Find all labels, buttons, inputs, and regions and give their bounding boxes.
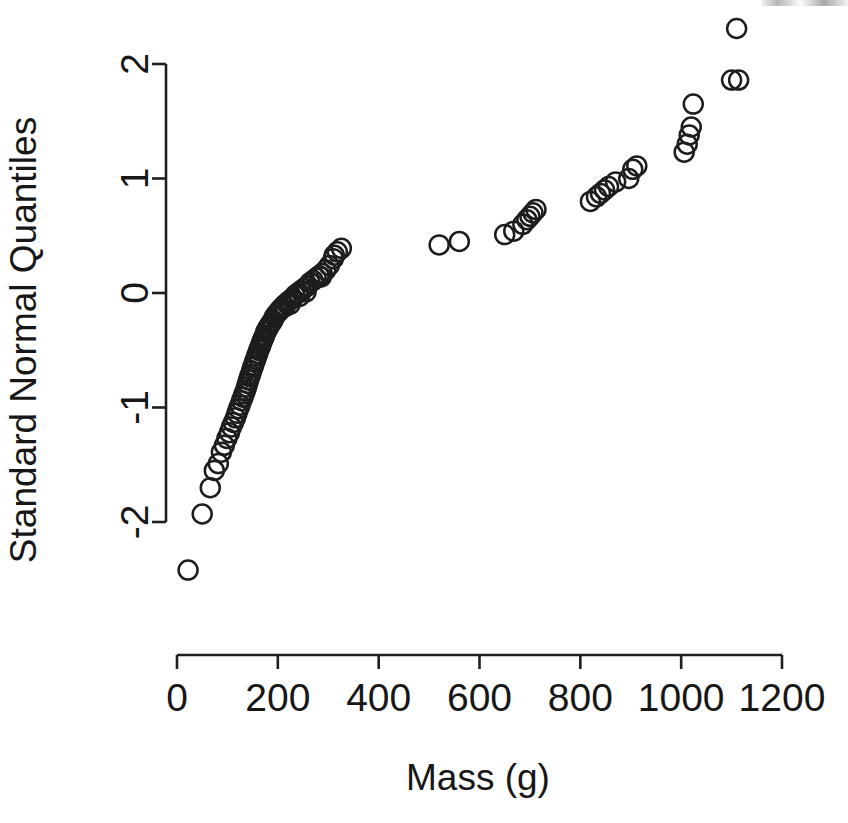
data-point bbox=[450, 232, 469, 251]
data-point bbox=[209, 454, 228, 473]
x-tick-label: 400 bbox=[346, 676, 411, 719]
x-axis bbox=[177, 655, 782, 669]
x-tick-label: 1200 bbox=[739, 676, 826, 719]
x-tick-label: 600 bbox=[447, 676, 512, 719]
y-tick-label: -2 bbox=[113, 505, 156, 540]
y-tick-label: 1 bbox=[113, 168, 156, 190]
data-point bbox=[179, 561, 198, 580]
data-point bbox=[684, 95, 703, 114]
x-tick-label: 200 bbox=[245, 676, 310, 719]
x-tick-label: 0 bbox=[166, 676, 188, 719]
y-tick-labels: -2-1012 bbox=[113, 53, 156, 539]
x-tick-labels: 020040060080010001200 bbox=[166, 676, 825, 719]
x-axis-title: Mass (g) bbox=[406, 757, 550, 798]
y-tick-label: -1 bbox=[113, 390, 156, 425]
y-tick-label: 0 bbox=[113, 282, 156, 304]
y-tick-label: 2 bbox=[113, 53, 156, 75]
data-point bbox=[727, 19, 746, 38]
data-point bbox=[193, 504, 212, 523]
plot-canvas: -2-1012 020040060080010001200 Standard N… bbox=[0, 0, 848, 823]
qq-plot-figure: -2-1012 020040060080010001200 Standard N… bbox=[0, 0, 848, 823]
y-axis-title: Standard Normal Quantiles bbox=[3, 117, 44, 563]
data-points-group bbox=[179, 19, 749, 580]
data-point bbox=[201, 478, 220, 497]
x-tick-label: 800 bbox=[548, 676, 613, 719]
x-tick-label: 1000 bbox=[638, 676, 725, 719]
data-point bbox=[430, 235, 449, 254]
